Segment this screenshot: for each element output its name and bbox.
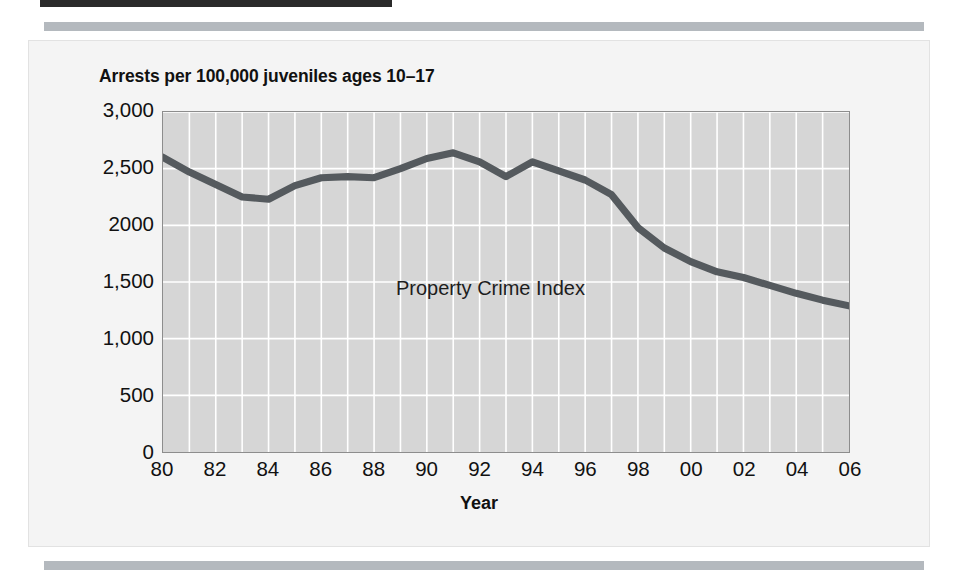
y-axis-tick-label: 2000 (64, 212, 154, 236)
series-annotation-label: Property Crime Index (396, 277, 585, 300)
x-axis-tick-label: 88 (351, 457, 397, 481)
bottom-divider-rule (44, 561, 924, 570)
y-axis-tick-label: 2,500 (64, 155, 154, 179)
x-axis-tick-label: 86 (298, 457, 344, 481)
x-axis-tick-label: 00 (668, 457, 714, 481)
page-root: Arrests per 100,000 juveniles ages 10–17… (0, 0, 969, 588)
chart-title: Arrests per 100,000 juveniles ages 10–17 (99, 66, 435, 87)
x-axis-tick-label: 80 (139, 457, 185, 481)
top-divider-rule (44, 22, 924, 31)
x-axis-tick-label: 90 (404, 457, 450, 481)
y-axis-tick-label: 1,000 (64, 326, 154, 350)
x-axis-tick-label: 02 (721, 457, 767, 481)
page-corner-marker (40, 0, 392, 7)
x-axis-tick-label: 06 (827, 457, 873, 481)
y-axis-tick-labels: 05001,0001,50020002,5003,000 (29, 111, 154, 453)
x-axis-tick-label: 84 (245, 457, 291, 481)
y-axis-tick-label: 1,500 (64, 269, 154, 293)
y-axis-tick-label: 500 (64, 383, 154, 407)
figure-panel: Arrests per 100,000 juveniles ages 10–17… (28, 40, 930, 547)
x-axis-tick-label: 04 (774, 457, 820, 481)
x-axis-tick-label: 82 (192, 457, 238, 481)
y-axis-tick-label: 3,000 (64, 98, 154, 122)
x-axis-tick-label: 94 (509, 457, 555, 481)
x-axis-tick-label: 98 (615, 457, 661, 481)
x-axis-title: Year (29, 493, 929, 514)
x-axis-tick-label: 96 (562, 457, 608, 481)
x-axis-tick-label: 92 (457, 457, 503, 481)
x-axis-tick-labels: 8082848688909294969800020406 (162, 457, 850, 487)
